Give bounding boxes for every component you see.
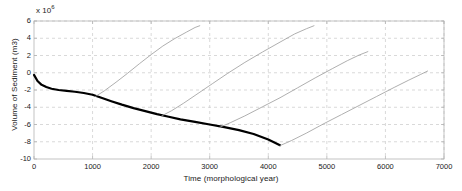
y-tick-label: 0 [12, 68, 31, 77]
series-baseline-erosion [34, 75, 280, 145]
series-recovery-curve-2 [162, 26, 314, 116]
x-tick-label: 3000 [199, 162, 221, 171]
y-tick-label: 6 [12, 16, 31, 25]
x-tick-label: 7000 [433, 162, 455, 171]
series-recovery-curve-3 [219, 52, 368, 128]
y-axis-exponent-mantissa: x 10 [36, 6, 51, 15]
x-tick-label: 2000 [140, 162, 162, 171]
y-axis-exponent: x 106 [36, 4, 54, 15]
y-tick-label: 2 [12, 51, 31, 60]
x-tick-label: 5000 [316, 162, 338, 171]
y-tick-label: -8 [12, 137, 31, 146]
series-layer [34, 26, 428, 146]
x-axis-title: Time (morphological year) [0, 174, 462, 183]
figure-container: x 106 Volume of Sediment (m3) Time (morp… [0, 0, 462, 191]
y-axis-exponent-power: 6 [51, 4, 54, 10]
y-tick-label: -10 [12, 154, 31, 163]
series-recovery-curve-4 [280, 71, 428, 146]
x-tick-label: 4000 [257, 162, 279, 171]
x-tick-label: 0 [23, 162, 45, 171]
x-tick-label: 1000 [82, 162, 104, 171]
y-tick-label: 4 [12, 33, 31, 42]
series-recovery-curve-1 [96, 26, 200, 97]
y-tick-label: -4 [12, 102, 31, 111]
y-tick-label: -2 [12, 85, 31, 94]
grid-layer [34, 21, 444, 159]
x-tick-label: 6000 [374, 162, 396, 171]
y-tick-label: -6 [12, 120, 31, 129]
